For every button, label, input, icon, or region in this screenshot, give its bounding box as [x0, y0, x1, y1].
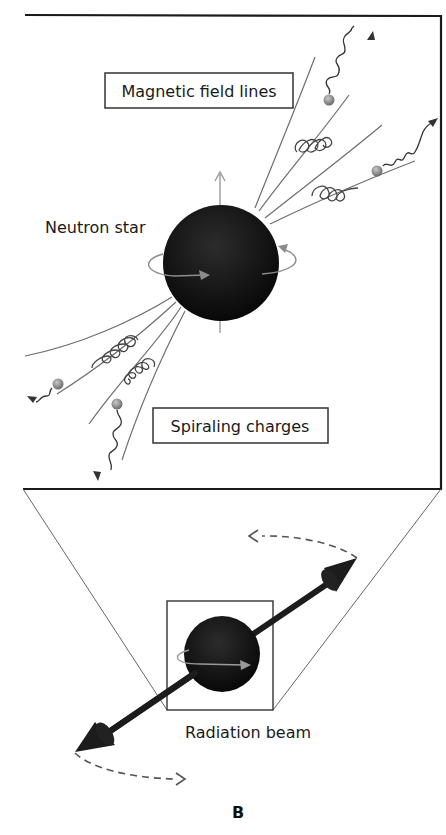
radiation-wave: [326, 26, 354, 94]
charge-particle: [372, 166, 383, 177]
pulsar-star: [184, 616, 260, 692]
radiation-arrowhead: [27, 396, 37, 403]
spiraling-charges-label: Spiraling charges: [153, 408, 328, 443]
beam-rotation-arc-upper: [249, 530, 357, 558]
top-panel: Magnetic field lines Neutron star Spiral…: [23, 15, 441, 489]
spiraling-charge-lower-2: [93, 359, 155, 481]
neutron-star-label: Neutron star: [45, 218, 146, 237]
beam-rotation-arc-lower: [75, 753, 185, 785]
neutron-star: [163, 205, 279, 321]
radiation-wave: [109, 410, 121, 470]
magnetic-field-lines-text: Magnetic field lines: [121, 82, 276, 101]
figure-letter: B: [232, 803, 244, 822]
charge-particle: [324, 95, 335, 106]
radiation-arrowhead: [428, 118, 438, 127]
bottom-panel: Radiation beam B: [75, 530, 357, 822]
radiation-wave: [383, 122, 433, 166]
pulsar-diagram: Magnetic field lines Neutron star Spiral…: [0, 0, 446, 835]
radiation-wave: [36, 388, 52, 402]
radiation-arrowhead: [93, 471, 101, 481]
radiation-arrowhead: [367, 31, 375, 40]
radiation-beam-label: Radiation beam: [185, 723, 311, 742]
magnetic-field-lines-label: Magnetic field lines: [105, 73, 293, 108]
spiraling-charge-upper-1: [295, 26, 375, 152]
charge-particle: [112, 399, 123, 410]
charge-particle: [53, 379, 64, 390]
spiraling-charges-text: Spiraling charges: [171, 417, 310, 436]
spiraling-charge-lower-1: [27, 336, 138, 403]
